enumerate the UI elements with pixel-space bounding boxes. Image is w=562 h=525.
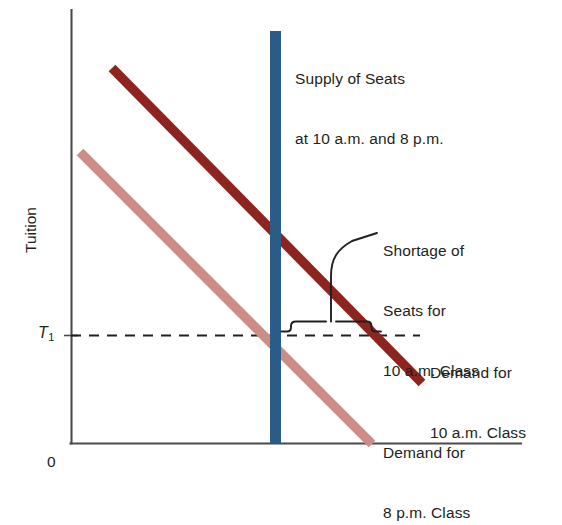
demand-8pm-annotation: Demand for 8 p.m. Class [383,403,470,525]
demand-10am-annotation-line1: Demand for [430,363,526,383]
demand-8pm-line [80,152,372,444]
demand-8pm-annotation-line1: Demand for [383,443,470,463]
brace-left-arm [282,322,327,332]
shortage-brace-group [282,233,382,332]
t1-tick-label: T1 [38,324,54,342]
y-axis-title: Tuition [22,190,40,270]
supply-annotation: Supply of Seats at 10 a.m. and 8 p.m. [295,29,444,189]
origin-label: 0 [47,453,56,471]
supply-annotation-line2: at 10 a.m. and 8 p.m. [295,129,444,149]
t1-tick-label-subscript: 1 [48,331,54,343]
shortage-annotation-line1: Shortage of [383,241,479,261]
t1-tick-label-base: T [38,324,48,341]
shortage-annotation-line2: Seats for [383,301,479,321]
supply-annotation-line1: Supply of Seats [295,69,444,89]
demand-8pm-annotation-line2: 8 p.m. Class [383,503,470,523]
